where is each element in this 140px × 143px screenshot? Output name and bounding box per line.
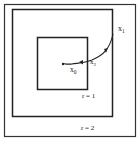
diagram-canvas: x1 x2 x0 r = 1 r = 2 xyxy=(0,0,140,143)
x2-label: x2 xyxy=(90,58,97,67)
x1-label: x1 xyxy=(118,24,125,34)
x0-point xyxy=(62,63,64,65)
r2-label: r = 2 xyxy=(81,124,95,132)
arrow-icon xyxy=(79,60,83,65)
r1-label: r = 1 xyxy=(82,92,96,100)
x0-label: x0 xyxy=(70,65,77,75)
